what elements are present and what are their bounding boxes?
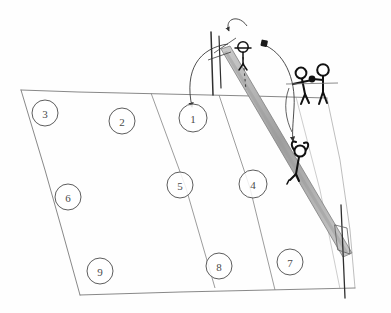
zone-8-label: 8 (216, 261, 222, 273)
zone-3[interactable]: 3 (32, 100, 58, 126)
net-band-shade (224, 51, 348, 253)
zone-4[interactable]: 4 (239, 170, 267, 198)
volleyball-net (221, 46, 352, 257)
zone-1-label: 1 (190, 113, 196, 125)
zone-2[interactable]: 2 (109, 108, 135, 134)
zone-2-label: 2 (119, 116, 125, 128)
court-zones: 321654987 (32, 100, 303, 284)
diagram-canvas: 321654987 (0, 0, 391, 313)
zone-5-label: 5 (177, 180, 183, 192)
net-post-far-a (211, 32, 213, 95)
zone-7[interactable]: 7 (277, 249, 303, 275)
volleyball-diagram: 321654987 (0, 0, 391, 313)
net-post-far-b (219, 36, 221, 88)
zone-9[interactable]: 9 (87, 258, 113, 284)
arc-passer-loop (286, 88, 292, 132)
zone-5[interactable]: 5 (167, 172, 193, 198)
arc-toss-over-net (228, 19, 247, 31)
zone-1[interactable]: 1 (179, 104, 207, 132)
zone-3-label: 3 (42, 108, 48, 120)
ball (260, 39, 268, 47)
zone-9-label: 9 (97, 266, 103, 278)
zone-6[interactable]: 6 (55, 184, 81, 210)
zone-7-label: 7 (287, 257, 293, 269)
zone-6-label: 6 (65, 192, 71, 204)
zone-8[interactable]: 8 (206, 253, 232, 279)
arc-serve-to-zone-1 (190, 44, 228, 107)
zone-4-label: 4 (250, 179, 256, 191)
